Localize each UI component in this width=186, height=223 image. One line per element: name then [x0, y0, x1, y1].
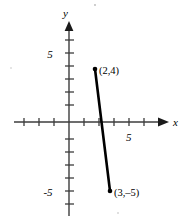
scan-speck: [94, 4, 96, 6]
point-marker-2-4: [93, 67, 98, 72]
scan-speck: [117, 212, 119, 214]
x-axis-label: x: [172, 116, 178, 128]
graph-svg: 5 x 5 -5 y: [0, 0, 186, 223]
y-axis-tick-label-negative-5: -5: [43, 186, 53, 198]
scan-speck: [10, 67, 11, 68]
point-marker-3-neg5: [108, 189, 113, 194]
point-label-2-4: (2,4): [99, 65, 120, 77]
y-axis-tick-label-positive-5: 5: [47, 48, 53, 60]
x-axis-tick-label-5: 5: [126, 131, 132, 143]
y-axis-label: y: [62, 7, 68, 19]
point-label-3-neg5: (3,–5): [114, 187, 140, 199]
figure-background: [0, 0, 186, 223]
coordinate-plane-figure: 5 x 5 -5 y: [0, 0, 186, 223]
